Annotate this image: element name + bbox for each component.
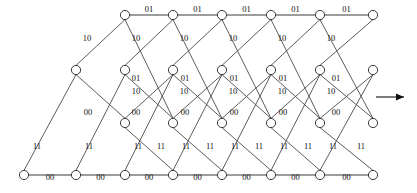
edge-label-10-upper: 10 bbox=[327, 33, 336, 43]
edge-label-01-top: 01 bbox=[342, 4, 351, 14]
direction-arrow-icon bbox=[376, 94, 404, 101]
edge-label-00-bottom: 00 bbox=[145, 172, 154, 182]
trellis-node-state-10-t3 bbox=[168, 118, 177, 127]
edge-10-00 bbox=[271, 128, 320, 171]
edge-label-11-fall: 11 bbox=[157, 141, 165, 151]
trellis-node-state-11-t2 bbox=[120, 10, 129, 19]
edge-label-00-bottom: 00 bbox=[242, 172, 251, 182]
trellis-node-state-00-t7 bbox=[368, 170, 377, 179]
edge-label-00-bottom: 00 bbox=[291, 172, 300, 182]
edge-label-00-inner: 00 bbox=[332, 107, 341, 117]
nodes-layer bbox=[19, 10, 377, 179]
edge-label-01-fall: 01 bbox=[279, 73, 288, 83]
trellis-node-state-01-t3 bbox=[168, 65, 177, 74]
edge-00-01 bbox=[24, 75, 76, 171]
edge-label-11-fall: 11 bbox=[304, 141, 312, 151]
trellis-node-state-10-t5 bbox=[266, 118, 275, 127]
edge-label-10-upper: 10 bbox=[132, 33, 141, 43]
edge-00-01 bbox=[76, 75, 125, 171]
trellis-node-state-00-t3 bbox=[168, 170, 177, 179]
edge-label-01-top: 01 bbox=[193, 4, 202, 14]
trellis-node-state-00-t0 bbox=[19, 170, 28, 179]
trellis-node-state-01-t5 bbox=[266, 65, 275, 74]
edge-label-01-top: 01 bbox=[145, 4, 154, 14]
trellis-node-state-00-t5 bbox=[266, 170, 275, 179]
edge-label-11-rise: 11 bbox=[280, 141, 288, 151]
trellis-node-state-11-t3 bbox=[168, 10, 177, 19]
trellis-node-state-00-t6 bbox=[315, 170, 324, 179]
edge-label-01-top: 01 bbox=[242, 4, 251, 14]
edge-label-00-bottom: 00 bbox=[46, 172, 55, 182]
trellis-node-state-11-t4 bbox=[217, 10, 226, 19]
edge-label-11-rise: 11 bbox=[85, 141, 93, 151]
trellis-node-state-10-t4 bbox=[217, 118, 226, 127]
trellis-svg: 0011001110000001111010010011000111101001… bbox=[0, 0, 417, 193]
trellis-node-state-01-t4 bbox=[217, 65, 226, 74]
edge-label-00-bottom: 00 bbox=[96, 172, 105, 182]
edges-layer bbox=[24, 15, 373, 175]
edge-10-00 bbox=[222, 128, 271, 171]
edge-label-01-fall: 01 bbox=[181, 73, 190, 83]
trellis-node-state-10-t7 bbox=[368, 118, 377, 127]
trellis-node-state-11-t7 bbox=[368, 10, 377, 19]
edge-label-00-inner: 00 bbox=[84, 107, 93, 117]
edge-label-11-rise: 11 bbox=[134, 141, 142, 151]
trellis-node-state-10-t6 bbox=[315, 118, 324, 127]
trellis-node-state-00-t2 bbox=[120, 170, 129, 179]
edge-label-10-mid: 10 bbox=[180, 86, 189, 96]
trellis-node-state-01-t2 bbox=[120, 65, 129, 74]
edge-label-11-fall: 11 bbox=[206, 141, 214, 151]
edge-label-10-upper: 10 bbox=[180, 33, 189, 43]
trellis-node-state-11-t6 bbox=[315, 10, 324, 19]
edge-label-11-fall: 11 bbox=[255, 141, 263, 151]
edge-label-01-fall: 01 bbox=[332, 73, 341, 83]
edge-label-10-upper: 10 bbox=[278, 33, 287, 43]
edge-label-01-fall: 01 bbox=[230, 73, 239, 83]
edge-label-00-bottom: 00 bbox=[193, 172, 202, 182]
edge-label-11-rise: 11 bbox=[182, 141, 190, 151]
edge-label-10-mid: 10 bbox=[132, 86, 141, 96]
trellis-node-state-00-t1 bbox=[71, 170, 80, 179]
edge-label-11-rise: 11 bbox=[231, 141, 239, 151]
labels-layer: 0011001110000001111010010011000111101001… bbox=[33, 4, 365, 182]
trellis-node-state-01-t6 bbox=[315, 65, 324, 74]
edge-label-10-mid: 10 bbox=[327, 86, 336, 96]
edge-label-00-inner: 00 bbox=[132, 107, 141, 117]
edge-label-00-bottom: 00 bbox=[342, 172, 351, 182]
edge-label-11-rise: 11 bbox=[33, 141, 41, 151]
edge-label-11-rise: 11 bbox=[329, 141, 337, 151]
edge-label-10-mid: 10 bbox=[278, 86, 287, 96]
edge-10-00 bbox=[173, 128, 222, 171]
trellis-node-state-11-t5 bbox=[266, 10, 275, 19]
trellis-node-state-01-t1 bbox=[71, 65, 80, 74]
edge-label-10-upper: 10 bbox=[229, 33, 238, 43]
edge-label-10-upper: 10 bbox=[83, 33, 92, 43]
edge-label-00-inner: 00 bbox=[181, 107, 190, 117]
trellis-diagram: 0011001110000001111010010011000111101001… bbox=[0, 0, 417, 193]
edge-10-00 bbox=[125, 128, 173, 171]
edge-label-01-top: 01 bbox=[291, 4, 300, 14]
edge-label-11-fall: 11 bbox=[357, 141, 365, 151]
edge-label-01-fall: 01 bbox=[132, 73, 141, 83]
trellis-node-state-01-t7 bbox=[368, 65, 377, 74]
edge-label-10-mid: 10 bbox=[229, 86, 238, 96]
trellis-node-state-00-t4 bbox=[217, 170, 226, 179]
trellis-node-state-10-t2 bbox=[120, 118, 129, 127]
edge-label-00-inner: 00 bbox=[230, 107, 239, 117]
edge-label-00-inner: 00 bbox=[279, 107, 288, 117]
